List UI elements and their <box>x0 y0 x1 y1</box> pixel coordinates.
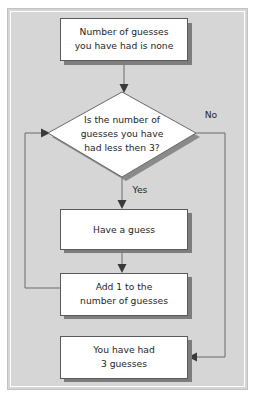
node-decision-line-1: Is the number of <box>84 114 161 125</box>
node-start-line-2: you have had is none <box>75 40 174 51</box>
node-end: You have had 3 guesses <box>61 337 193 383</box>
node-start: Number of guesses you have had is none <box>61 19 193 66</box>
node-end-line-1: You have had <box>92 344 155 355</box>
node-add-one: Add 1 to the number of guesses <box>61 274 193 320</box>
flowchart-page: Number of guesses you have had is none I… <box>0 0 255 408</box>
node-start-line-1: Number of guesses <box>80 26 169 37</box>
node-decision-line-3: had less then 3? <box>84 142 160 153</box>
flowchart-canvas: Number of guesses you have had is none I… <box>0 0 255 408</box>
node-add-one-line-1: Add 1 to the <box>96 281 153 292</box>
node-add-one-line-2: number of guesses <box>80 295 168 306</box>
node-have-guess-line-1: Have a guess <box>93 224 155 235</box>
node-have-guess: Have a guess <box>61 210 193 254</box>
edge-label-yes: Yes <box>132 184 148 195</box>
node-end-line-2: 3 guesses <box>101 358 147 369</box>
node-decision-line-2: guesses you have <box>81 128 164 139</box>
diagram-panel <box>8 9 248 390</box>
edge-label-no: No <box>205 109 218 120</box>
